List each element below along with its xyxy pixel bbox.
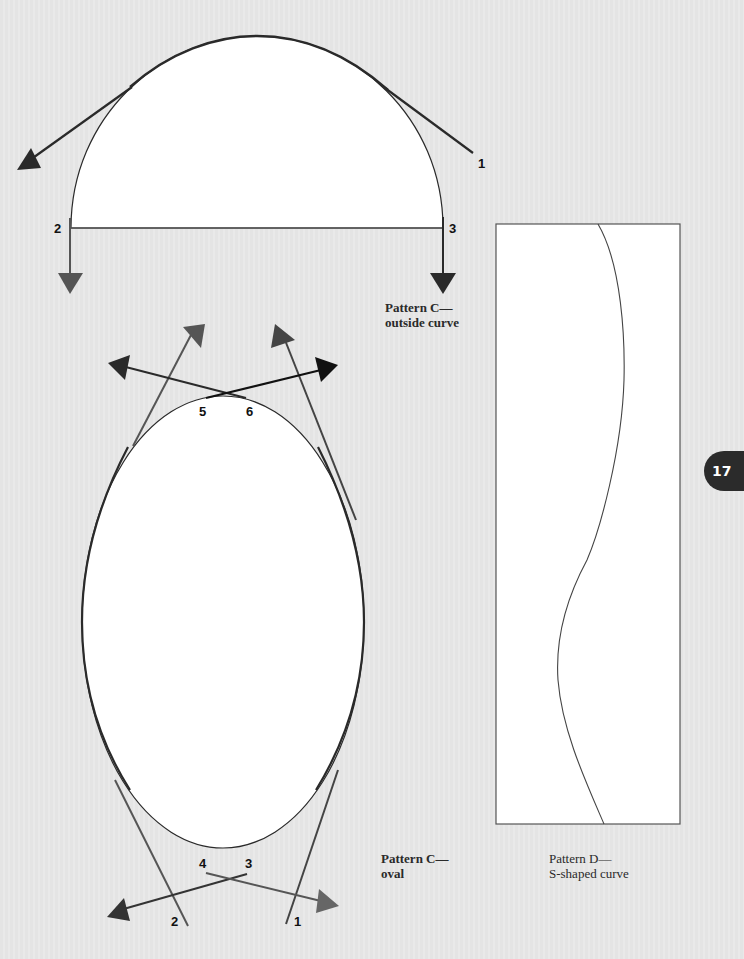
- label-point-3-oval: 3: [245, 856, 252, 871]
- arrowhead-left-bottom-icon: [107, 898, 130, 921]
- caption-title: Pattern C—: [385, 300, 459, 315]
- label-point-2-oval: 2: [171, 914, 178, 929]
- down-arrowhead-left-icon: [58, 273, 83, 294]
- label-point-6: 6: [246, 404, 253, 419]
- pattern-d-s-curve: [496, 224, 680, 824]
- left-arrowhead-icon: [17, 148, 41, 170]
- oval-bottom-line-right: [206, 873, 325, 902]
- label-point-3: 3: [449, 221, 456, 236]
- caption-subtitle: oval: [381, 866, 449, 881]
- caption-title: Pattern C—: [381, 851, 449, 866]
- pattern-d-rectangle: [496, 224, 680, 824]
- caption-title: Pattern D—: [549, 851, 629, 866]
- caption-pattern-c-oval: Pattern C— oval: [381, 851, 449, 881]
- label-point-1-oval: 1: [294, 914, 301, 929]
- label-point-4: 4: [199, 856, 207, 871]
- caption-pattern-d: Pattern D— S-shaped curve: [549, 851, 629, 881]
- semicircle-shape: [71, 36, 443, 228]
- page-number-tab: 17: [704, 451, 744, 491]
- label-point-5: 5: [199, 404, 206, 419]
- oval-bottom-line-left: [120, 874, 247, 910]
- pattern-c-outside-curve: 1 2 3: [17, 36, 485, 294]
- down-arrowhead-right-icon: [430, 273, 456, 294]
- arrowhead-up-right-icon: [271, 324, 295, 348]
- caption-subtitle: outside curve: [385, 315, 459, 330]
- caption-pattern-c-outside: Pattern C— outside curve: [385, 300, 459, 330]
- caption-subtitle: S-shaped curve: [549, 866, 629, 881]
- arrowhead-right-top-icon: [315, 357, 338, 382]
- label-point-2: 2: [54, 221, 61, 236]
- pattern-diagrams: 1 2 3 5 6 4 3 2 1: [0, 0, 744, 959]
- arrowhead-left-top-icon: [108, 355, 130, 380]
- pattern-c-oval: 5 6 4 3 2 1: [82, 324, 364, 929]
- label-point-1: 1: [478, 156, 485, 171]
- arrowhead-right-bottom-icon: [316, 889, 339, 913]
